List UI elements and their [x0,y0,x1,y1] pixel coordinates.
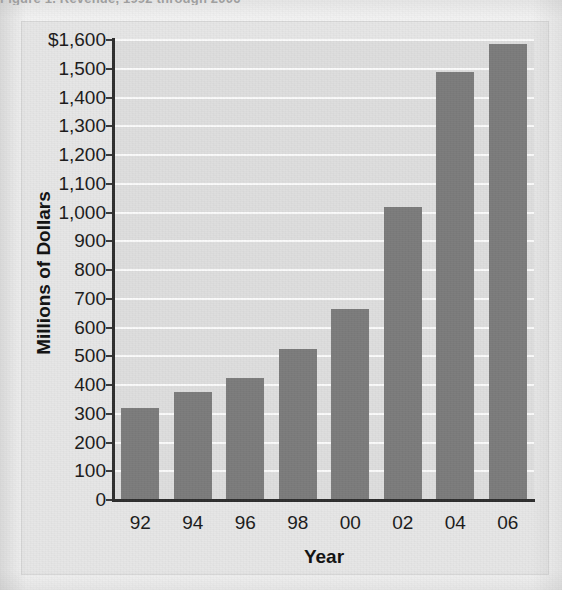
y-axis-title: Millions of Dollars [33,143,55,403]
y-axis-tick-label: 0 [6,490,106,509]
x-axis-tick-label: 92 [110,512,170,534]
y-axis-line [112,38,115,502]
y-axis-tick-label: 300 [6,404,106,423]
y-axis-tick-label: 400 [6,375,106,394]
y-axis-tick-label: 900 [6,231,106,250]
x-axis-tick-label: 98 [268,512,328,534]
x-axis-tick-label: 96 [215,512,275,534]
y-axis-tick-label: 1,200 [6,145,106,164]
chart-page: Figure 1. Revenue, 1992 through 2006 010… [0,0,562,590]
y-axis-tick-label: 100 [6,461,106,480]
y-axis-tick-label: 200 [6,433,106,452]
bar [174,392,212,500]
bar [121,408,159,500]
x-axis-line [112,499,535,502]
y-axis-tick-label: 700 [6,289,106,308]
plot-area [114,40,534,500]
gridline [114,39,534,41]
y-axis-tick-label: 1,000 [6,203,106,222]
x-axis-title: Year [114,546,534,568]
y-axis-tick-label: 1,500 [6,59,106,78]
gridline [114,68,534,70]
bar [331,309,369,500]
x-axis-tick-label: 04 [425,512,485,534]
bar [436,72,474,500]
y-axis-tick-label: 1,400 [6,88,106,107]
y-axis-tick-label: $1,600 [6,30,106,49]
y-axis-tick-label: 500 [6,346,106,365]
x-axis-tick-label: 00 [320,512,380,534]
y-axis-tick-label: 1,300 [6,116,106,135]
bar [226,378,264,500]
bar [384,207,422,500]
y-axis-tick-label: 800 [6,260,106,279]
x-axis-tick-label: 02 [373,512,433,534]
bar [279,349,317,500]
x-axis-tick-label: 06 [478,512,538,534]
bar [489,44,527,500]
x-axis-tick-label: 94 [163,512,223,534]
y-axis-tick-label: 1,100 [6,174,106,193]
y-axis-tick-label: 600 [6,318,106,337]
